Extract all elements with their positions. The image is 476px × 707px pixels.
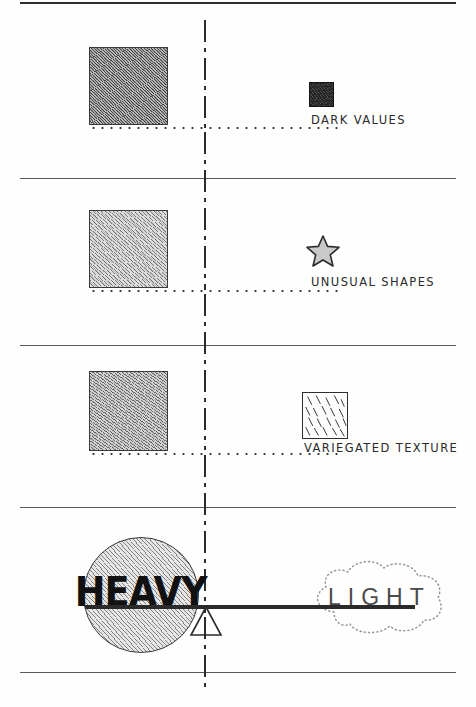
dotted-baseline-row-2 <box>89 290 340 292</box>
triangle-fulcrum-icon <box>189 605 223 637</box>
section-rule-1 <box>20 178 456 179</box>
star-icon <box>306 234 340 267</box>
legend-label-dark-values: DARK VALUES <box>311 113 406 127</box>
dotted-baseline-row-3 <box>89 453 340 455</box>
dark-square-icon <box>309 82 334 107</box>
diagram-canvas: DARK VALUES UNUSUAL SHAPES <box>0 0 476 707</box>
vertical-center-line-segment-2 <box>204 132 206 290</box>
dotted-baseline-row-1 <box>89 127 340 129</box>
legend-label-variegated-texture: VARIEGATED TEXTURE <box>304 441 458 455</box>
vertical-center-line-segment-3 <box>204 294 206 450</box>
section-rule-2 <box>20 345 456 346</box>
variegated-square-icon <box>302 392 348 439</box>
balance-beam <box>85 605 415 609</box>
value-swatch-variegated <box>89 371 168 451</box>
value-swatch-light <box>89 210 168 288</box>
section-rule-top <box>20 2 456 4</box>
section-rule-bottom <box>20 672 456 673</box>
vertical-center-line-segment-1 <box>204 20 206 128</box>
legend-label-unusual-shapes: UNUSUAL SHAPES <box>311 275 435 289</box>
heavy-weight-circle: HEAVY <box>83 537 199 653</box>
value-swatch-dark <box>89 47 168 125</box>
section-rule-3 <box>20 507 456 508</box>
